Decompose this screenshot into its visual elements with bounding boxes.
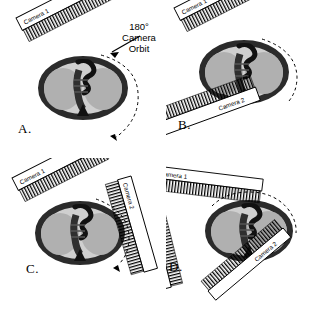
orbit-arrowhead-end <box>110 134 117 141</box>
camera-3[interactable]: Camera 3 <box>166 191 183 290</box>
panel-d: Camera 1 Camera 3 Camera 2 D. <box>166 158 332 316</box>
panel-c-letter: C. <box>26 261 39 277</box>
orbit-annotation-line1: 180° <box>112 21 166 32</box>
panel-c-diagram: Camera 1 Camera 2 <box>0 158 166 316</box>
camera-1[interactable]: Camera 1 <box>166 166 263 203</box>
orbit-annotation: 180° Camera Orbit <box>112 21 166 54</box>
panel-b-diagram: Camera 1 Camera 2 <box>166 0 332 158</box>
panel-a-letter: A. <box>18 121 32 137</box>
orbit-arrowhead-end <box>113 265 120 272</box>
figure-root: Camera 1 180° Camera Orbit A. <box>0 0 332 316</box>
camera-1[interactable]: Camera 1 <box>16 0 123 42</box>
panel-b-letter: B. <box>178 117 191 133</box>
thorax-phantom <box>38 204 122 262</box>
panel-d-letter: D. <box>169 259 183 275</box>
camera-1[interactable]: Camera 1 <box>12 158 110 202</box>
camera-1[interactable]: Camera 1 <box>174 0 282 32</box>
panel-c: Camera 1 Camera 2 C. <box>0 158 166 316</box>
orbit-annotation-line2: Camera <box>112 32 166 43</box>
panel-a: Camera 1 180° Camera Orbit A. <box>0 0 166 158</box>
panel-d-diagram: Camera 1 Camera 3 Camera 2 <box>166 158 332 316</box>
thorax-phantom <box>41 59 125 117</box>
orbit-annotation-line3: Orbit <box>112 43 166 54</box>
panel-b: Camera 1 Camera 2 B. <box>166 0 332 158</box>
